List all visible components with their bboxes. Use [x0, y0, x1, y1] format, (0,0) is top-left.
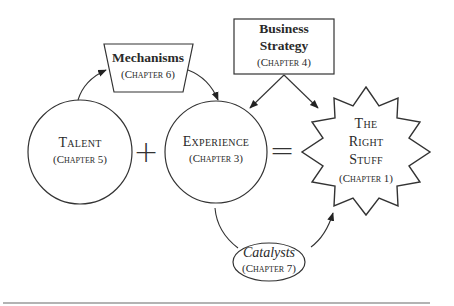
right-stuff-chapter: (Chapter 1)	[339, 172, 393, 185]
plus-operator: +	[133, 137, 158, 167]
arrow-catalysts-to-right-stuff	[311, 213, 333, 247]
equals-operator: =	[269, 136, 294, 166]
right-stuff-line1: The	[355, 116, 378, 132]
arrow-strategy-to-right-stuff	[284, 75, 318, 108]
business-strategy-chapter: (Chapter 4)	[257, 56, 311, 69]
arrow-strategy-to-experience	[250, 75, 284, 108]
right-stuff-starburst	[302, 87, 430, 215]
arrow-mechanisms-to-experience	[188, 70, 218, 100]
right-stuff-line3: Stuff	[349, 152, 383, 168]
experience-title: Experience	[183, 134, 250, 150]
catalysts-title: Catalysts	[243, 245, 295, 261]
line-experience-to-catalysts	[215, 208, 238, 248]
talent-title: Talent	[58, 135, 101, 151]
business-strategy-title-line2: Strategy	[260, 38, 309, 54]
catalysts-chapter: (Chapter 7)	[242, 262, 296, 275]
mechanisms-title: Mechanisms	[112, 50, 184, 66]
arrow-talent-to-mechanisms	[78, 70, 106, 100]
mechanisms-chapter: (Chapter 6)	[121, 68, 175, 81]
talent-circle	[28, 100, 132, 204]
talent-chapter: (Chapter 5)	[53, 153, 107, 166]
business-strategy-title-line1: Business	[259, 21, 309, 37]
experience-chapter: (Chapter 3)	[189, 152, 243, 165]
right-stuff-line2: Right	[349, 134, 384, 150]
